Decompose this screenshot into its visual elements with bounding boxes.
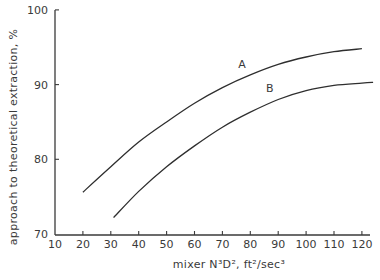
x-tick-label: 110 xyxy=(324,238,345,251)
curve-label-a: A xyxy=(238,58,246,71)
x-tick-label: 60 xyxy=(188,238,202,251)
x-tick-label: 120 xyxy=(351,238,372,251)
x-tick-label: 70 xyxy=(215,238,229,251)
y-tick-label: 100 xyxy=(27,4,48,17)
x-axis-title: mixer N³D², ft²/sec³ xyxy=(173,258,285,271)
x-ticks: 102030405060708090100110120 xyxy=(48,231,372,251)
x-tick-label: 20 xyxy=(76,238,90,251)
axes xyxy=(55,10,370,235)
y-tick-label: 80 xyxy=(34,153,48,166)
y-ticks: 708090100 xyxy=(27,4,59,241)
curve-label-b: B xyxy=(266,82,274,95)
curves xyxy=(83,49,373,218)
x-tick-label: 80 xyxy=(243,238,257,251)
x-tick-label: 50 xyxy=(160,238,174,251)
x-tick-label: 30 xyxy=(104,238,118,251)
x-tick-label: 100 xyxy=(296,238,317,251)
y-axis-title: approach to theoretical extraction, % xyxy=(7,29,20,245)
curve-labels: AB xyxy=(238,58,273,95)
line-chart: 102030405060708090100110120 708090100 AB… xyxy=(0,0,380,280)
x-tick-label: 10 xyxy=(48,238,62,251)
x-tick-label: 40 xyxy=(132,238,146,251)
y-tick-label: 70 xyxy=(34,228,48,241)
y-tick-label: 90 xyxy=(34,79,48,92)
x-tick-label: 90 xyxy=(271,238,285,251)
curve-a xyxy=(83,49,362,193)
curve-b xyxy=(114,82,374,217)
